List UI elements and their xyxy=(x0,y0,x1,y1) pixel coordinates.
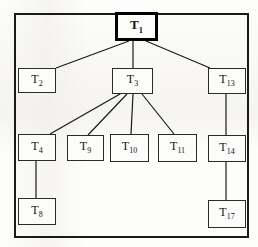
node-label-subscript: 4 xyxy=(39,146,43,155)
node-label-subscript: 13 xyxy=(227,80,235,89)
node-label-base: T xyxy=(219,140,227,154)
edge-t3-t10 xyxy=(131,94,133,134)
edge-t1-t13 xyxy=(146,41,210,68)
node-label-subscript: 3 xyxy=(134,80,138,89)
node-t10[interactable]: T10 xyxy=(110,134,149,162)
node-t9[interactable]: T9 xyxy=(67,135,104,161)
node-label-base: T xyxy=(31,139,39,153)
node-label-base: T xyxy=(31,203,39,217)
node-t17[interactable]: T17 xyxy=(208,200,246,228)
edge-t3-t9 xyxy=(88,94,127,135)
node-label: T2 xyxy=(31,73,43,88)
node-label-base: T xyxy=(130,17,139,32)
node-label-subscript: 17 xyxy=(227,213,235,222)
node-label-base: T xyxy=(219,205,227,219)
node-t1[interactable]: T1 xyxy=(115,12,158,41)
node-t3[interactable]: T3 xyxy=(112,68,153,94)
node-label: T11 xyxy=(170,140,185,155)
node-label: T17 xyxy=(219,206,235,221)
edge-t1-t2 xyxy=(56,41,129,68)
node-label-subscript: 8 xyxy=(39,210,43,219)
node-label-base: T xyxy=(31,72,39,86)
node-label: T14 xyxy=(219,141,235,156)
node-t14[interactable]: T14 xyxy=(208,135,246,162)
node-label: T10 xyxy=(122,140,138,155)
node-t11[interactable]: T11 xyxy=(158,134,197,162)
node-label: T1 xyxy=(130,18,143,34)
node-label-subscript: 2 xyxy=(39,79,43,88)
node-label-subscript: 10 xyxy=(129,147,137,156)
edge-t3-t11 xyxy=(142,94,174,134)
edge-t3-t4 xyxy=(50,94,120,134)
node-label: T4 xyxy=(31,140,43,155)
node-label: T13 xyxy=(219,73,235,88)
node-t13[interactable]: T13 xyxy=(208,68,246,94)
node-label-subscript: 1 xyxy=(139,25,143,35)
node-label: T8 xyxy=(31,204,43,219)
node-label-base: T xyxy=(219,72,227,86)
node-t2[interactable]: T2 xyxy=(18,68,56,93)
node-label-subscript: 11 xyxy=(177,147,185,156)
node-label-subscript: 9 xyxy=(87,147,91,156)
tree-diagram-figure: T1T2T3T13T4T9T10T11T14T8T17 xyxy=(0,0,258,247)
node-label-subscript: 14 xyxy=(227,147,235,156)
node-label: T3 xyxy=(127,73,139,88)
node-label: T9 xyxy=(80,140,92,155)
node-t8[interactable]: T8 xyxy=(18,198,56,225)
node-t4[interactable]: T4 xyxy=(18,134,56,161)
